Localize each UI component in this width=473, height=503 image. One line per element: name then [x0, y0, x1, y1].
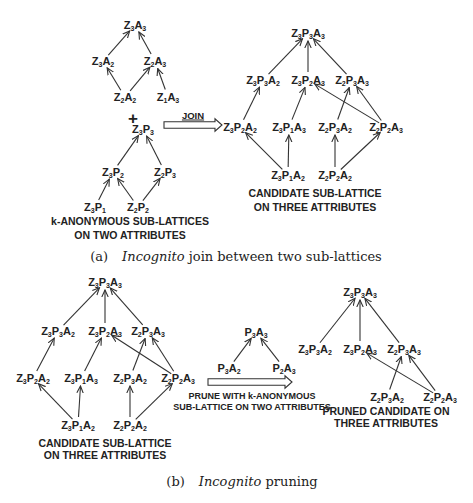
candidate-b-edge-arrow-icon: [152, 338, 173, 372]
candidate-a-edge-arrow-icon: [357, 86, 382, 120]
pa-edge-arrow-icon: [234, 338, 251, 361]
candidate-b-edge-arrow-icon: [64, 288, 100, 325]
zp-node-z2p3: Z2P3: [154, 166, 176, 179]
candidate-a-node-z3p1a2: Z3P1A2: [271, 169, 305, 182]
plus-sign: +: [128, 109, 138, 129]
candidate-b-node-z3p1a3: Z3P1A3: [64, 372, 98, 385]
candidate-a-node-z3p3a2: Z3P3A2: [246, 74, 280, 87]
candidate-a-edge-arrow-icon: [292, 87, 305, 119]
zp-node-z3p2: Z3P2: [102, 166, 124, 179]
candidate-a-node-z2p2a3: Z2P2A3: [369, 121, 403, 134]
candidate-a-node-z3p2a2: Z3P2A2: [223, 121, 257, 134]
caption-a-italic: Incognito: [122, 249, 185, 264]
za-edge-arrow-icon: [108, 31, 129, 55]
za-node-z3a2: Z3A2: [92, 55, 115, 68]
join-arrow-label: JOIN: [182, 110, 204, 121]
candidate-label-b-line2: ON THREE ATTRIBUTES: [44, 449, 167, 461]
candidate-b-node-z2p2a2: Z2P2A2: [113, 419, 147, 432]
candidate-label-b-line1: CANDIDATE SUB-LATTICE: [38, 437, 171, 449]
pruned-edge-arrow-icon: [320, 298, 355, 342]
pa-node-p3a3: P3A3: [244, 326, 267, 339]
zp-edge-arrow-icon: [118, 136, 139, 166]
prune-label-line2: SUB-LATTICE ON TWO ATTRIBUTES: [173, 402, 330, 412]
pa-edge-arrow-icon: [261, 338, 279, 361]
caption-b-rest: pruning: [261, 474, 317, 489]
candidate-b-node-z3p1a2: Z3P1A2: [61, 419, 95, 432]
caption-a: (a)Incognito join between two sub-lattic…: [90, 249, 382, 264]
k-anonymous-label-line1: k-ANONYMOUS SUB-LATTICES: [51, 215, 209, 227]
candidate-a-node-z3p1a3: Z3P1A3: [272, 121, 306, 134]
za-node-z1a3: Z1A3: [157, 91, 180, 104]
prune-label-line1: PRUNE WITH k-ANONYMOUS: [188, 391, 315, 401]
candidate-b-edge-arrow-icon: [136, 384, 173, 420]
candidate-b-edge-arrow-icon: [133, 338, 145, 370]
pa-node-p3a2: P3A2: [217, 362, 240, 375]
candidate-b-node-z2p3a2: Z2P3A2: [113, 372, 147, 385]
zp-edge-arrow-icon: [147, 136, 162, 165]
za-edge-arrow-icon: [139, 32, 151, 54]
candidate-b-edge-arrow-icon: [37, 338, 54, 371]
pruned-node-z2p3a3: Z2P3A3: [387, 343, 421, 356]
candidate-b-node-z3p2a2: Z3P2A2: [16, 372, 50, 385]
zp-edge-arrow-icon: [118, 179, 134, 201]
za-edge-arrow-icon: [130, 67, 150, 91]
pruned-edge-arrow-icon: [409, 355, 435, 390]
candidate-a-edge-arrow-icon: [246, 133, 283, 170]
caption-b-italic: Incognito: [199, 474, 262, 489]
zp-edge-arrow-icon: [143, 178, 160, 200]
za-node-z3a3: Z3A3: [124, 19, 147, 32]
candidate-b-edge-arrow-icon: [39, 384, 73, 419]
prune-arrow-icon: [208, 376, 292, 388]
zp-node-z2p2: Z2P2: [127, 201, 149, 214]
caption-a-rest: join between two sub-lattices: [185, 249, 382, 264]
pruned-node-z3p3a3: Z3P3A3: [343, 286, 377, 299]
pruned-node-z2p2a3: Z2P2A3: [423, 391, 457, 404]
pruned-label-line2: THREE ATTRIBUTES: [334, 417, 438, 429]
candidate-b-node-z2p2a3: Z2P2A3: [161, 372, 195, 385]
candidate-b-node-z3p3a2: Z3P3A2: [41, 325, 75, 338]
candidate-b-node-z2p3a3: Z2P3A3: [131, 325, 165, 338]
caption-b: (b)Incognito pruning: [166, 474, 317, 489]
caption-a-tag: (a): [90, 249, 108, 264]
candidate-a-node-z2p2a2: Z2P2A2: [318, 169, 352, 182]
candidate-b-node-z3p3a3: Z3P3A3: [88, 276, 122, 289]
candidate-a-edge-arrow-icon: [288, 135, 289, 167]
candidate-a-node-z2p3a3: Z2P3A3: [335, 74, 369, 87]
za-node-z2a3: Z2A3: [144, 55, 167, 68]
candidate-a-node-z3p2a3: Z3P2A3: [291, 74, 325, 87]
pruned-node-z2p3a2: Z2P3A2: [370, 391, 404, 404]
candidate-b-edge-arrow-icon: [85, 338, 102, 371]
pruned-node-z3p2a3: Z3P2A3: [343, 343, 377, 356]
candidate-b-node-z3p2a3: Z3P2A3: [88, 325, 122, 338]
candidate-label-a-line1: CANDIDATE SUB-LATTICE: [248, 187, 381, 199]
candidate-a-edge-arrow-icon: [269, 39, 303, 74]
za-edge-arrow-icon: [158, 69, 166, 90]
candidate-a-edge-arrow-icon: [313, 39, 346, 74]
candidate-a-edge-arrow-icon: [341, 132, 380, 169]
candidate-a-node-z3p3a3: Z3P3A3: [291, 27, 325, 40]
zp-node-z3p1: Z3P1: [84, 201, 106, 214]
k-anonymous-label-line2: ON TWO ATTRIBUTES: [74, 229, 185, 241]
za-node-z2a2: Z2A2: [114, 91, 137, 104]
pruned-label-line1: PRUNED CANDIDATE ON: [323, 405, 450, 417]
join-arrow-icon: [164, 119, 222, 131]
pa-node-p2a3: P2A3: [272, 362, 295, 375]
pruned-node-z3p3a2: Z3P3A2: [298, 343, 332, 356]
candidate-b-edge-arrow-icon: [79, 386, 81, 417]
candidate-a-node-z2p3a2: Z2P3A2: [318, 121, 352, 134]
pruned-edge-arrow-icon: [365, 298, 399, 342]
za-edge-arrow-icon: [107, 68, 121, 90]
candidate-b-edge-arrow-icon: [112, 335, 172, 373]
caption-b-tag: (b): [166, 474, 184, 489]
candidate-b-edge-arrow-icon: [110, 288, 142, 325]
candidate-a-edge-arrow-icon: [244, 87, 260, 120]
zp-edge-arrow-icon: [99, 179, 110, 200]
candidate-label-a-line2: ON THREE ATTRIBUTES: [254, 201, 377, 213]
